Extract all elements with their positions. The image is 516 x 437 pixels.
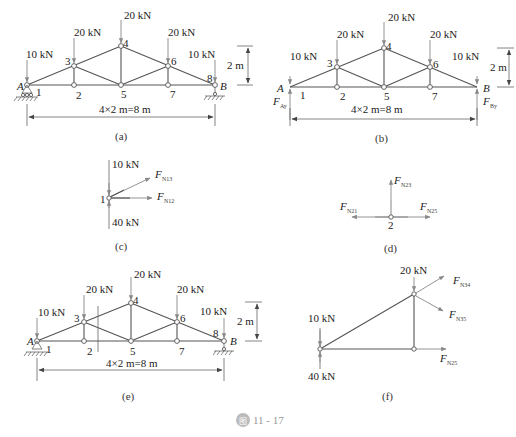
load-label-4: 20 kN [388, 11, 415, 23]
load-label-4: 20 kN [134, 268, 161, 280]
node-label-2: 2 [76, 89, 82, 101]
svg-text:F: F [339, 200, 347, 212]
svg-text:N25: N25 [427, 208, 437, 214]
node-label-3: 3 [327, 57, 333, 69]
node-label-7: 7 [432, 90, 438, 102]
panel-f: 20 kN 10 kN 40 kN F N34 F N35 F N25 (f) [308, 264, 470, 403]
load-label-3: 20 kN [74, 26, 101, 38]
svg-text:N23: N23 [401, 182, 411, 188]
panel-label-f: (f) [382, 390, 393, 403]
load-label-up: 40 kN [112, 216, 139, 228]
force-label-n23: F N23 [393, 174, 411, 188]
svg-text:N12: N12 [164, 198, 174, 204]
load-label-3: 20 kN [337, 28, 364, 40]
reaction-label-right: F By [482, 95, 497, 109]
node-label-7: 7 [170, 88, 176, 100]
load-label-4: 20 kN [124, 9, 151, 21]
node-label-8: 8 [207, 72, 213, 84]
svg-text:N35: N35 [456, 316, 466, 322]
span-dim-label: 4×2 m=8 m [351, 103, 403, 115]
load-label-top: 20 kN [400, 264, 427, 276]
svg-text:F: F [439, 352, 447, 364]
truss-members [27, 46, 215, 85]
svg-text:N34: N34 [460, 282, 470, 288]
span-dim-label: 4×2 m=8 m [99, 103, 151, 115]
node-label-2: 2 [340, 90, 346, 102]
node-label-4: 4 [133, 294, 139, 306]
panel-label-c: (c) [115, 240, 128, 253]
svg-text:Ay: Ay [280, 103, 287, 109]
load-label-b: 10 kN [188, 48, 215, 60]
reaction-label-left: F Ay [272, 95, 287, 109]
node-label-1: 1 [46, 343, 52, 355]
panel-label-b: (b) [375, 132, 388, 145]
svg-text:F: F [419, 200, 427, 212]
node-label-6: 6 [171, 55, 177, 67]
node-label-2: 2 [87, 345, 93, 357]
height-dim-label: 2 m [237, 315, 254, 327]
load-label-b: 10 kN [452, 50, 479, 62]
node-label-3: 3 [74, 312, 80, 324]
support-label-a: A [16, 80, 24, 92]
load-label-a: 10 kN [26, 48, 53, 60]
node-label-7: 7 [179, 345, 185, 357]
node-label-3: 3 [65, 55, 71, 67]
truss-figure: 10 kN 20 kN 20 kN 20 kN 10 kN 1 2 3 4 5 … [0, 0, 516, 437]
figure-caption: 图 11 - 17 [236, 413, 284, 427]
load-label-a: 10 kN [38, 306, 65, 318]
support-label-b: B [220, 80, 227, 92]
svg-text:N21: N21 [347, 208, 357, 214]
svg-text:N25: N25 [447, 360, 457, 366]
support-label-a: A [26, 335, 34, 347]
load-label-b: 10 kN [200, 305, 227, 317]
height-dim-label: 2 m [227, 59, 244, 71]
support-label-b: B [230, 335, 237, 347]
svg-text:N13: N13 [162, 176, 172, 182]
support-label-a: A [276, 82, 284, 94]
svg-text:F: F [393, 174, 401, 186]
node-label-1: 1 [100, 193, 106, 205]
force-label-n12: F N12 [156, 190, 174, 204]
span-dim-label: 4×2 m=8 m [106, 357, 158, 369]
svg-text:F: F [452, 274, 460, 286]
force-label-n25: F N25 [419, 200, 437, 214]
node-label-8: 8 [213, 327, 219, 339]
panel-a: 10 kN 20 kN 20 kN 20 kN 10 kN 1 2 3 4 5 … [14, 9, 253, 143]
panel-label-a: (a) [115, 130, 128, 143]
load-label-6: 20 kN [168, 26, 195, 38]
figure-badge-text: 图 [239, 417, 247, 426]
panel-e: 10 kN 20 kN 20 kN 20 kN 10 kN 1 2 3 4 5 … [24, 268, 262, 403]
panel-label-e: (e) [122, 390, 135, 403]
node-label-2: 2 [388, 219, 394, 231]
load-label-up: 40 kN [308, 370, 335, 382]
node-label-1: 1 [300, 89, 306, 101]
height-dim-label: 2 m [490, 61, 507, 73]
load-label-down: 10 kN [112, 158, 139, 170]
force-label-n35: F N35 [448, 308, 466, 322]
panel-label-d: (d) [384, 242, 397, 255]
node-label-4: 4 [123, 37, 129, 49]
force-label-n21: F N21 [339, 200, 357, 214]
panel-b: 10 kN 20 kN 20 kN 20 kN 10 kN 1 2 3 4 5 … [272, 11, 514, 145]
node-label-5: 5 [130, 345, 136, 357]
svg-text:By: By [490, 103, 497, 109]
support-label-b: B [483, 82, 490, 94]
node-label-4: 4 [386, 40, 392, 52]
svg-text:F: F [272, 95, 280, 107]
load-label-3: 20 kN [86, 283, 113, 295]
svg-text:F: F [156, 190, 164, 202]
svg-text:F: F [154, 168, 162, 180]
load-label-6: 20 kN [430, 28, 457, 40]
force-label-n34: F N34 [452, 274, 470, 288]
panel-d: 2 F N23 F N21 F N25 (d) [339, 174, 437, 255]
node-label-6: 6 [180, 312, 186, 324]
panel-c: 1 10 kN 40 kN F N13 F N12 (c) [100, 158, 174, 253]
force-label-n13: F N13 [154, 168, 172, 182]
svg-text:F: F [482, 95, 490, 107]
figure-number: 11 - 17 [253, 414, 284, 426]
truss-members [290, 48, 477, 87]
load-label-a: 10 kN [290, 50, 317, 62]
load-label-down: 10 kN [308, 312, 335, 324]
load-label-6: 20 kN [177, 283, 204, 295]
force-label-n25: F N25 [439, 352, 457, 366]
